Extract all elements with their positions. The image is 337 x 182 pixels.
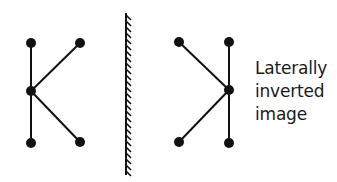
arm-line [31, 43, 80, 91]
arm-line [179, 90, 229, 142]
point-dot [26, 138, 36, 148]
point-dot [26, 38, 36, 48]
point-dot [174, 37, 184, 47]
point-dot [26, 86, 36, 96]
point-dot [224, 85, 234, 95]
inverted-image-shape [174, 37, 234, 148]
lateral-inversion-diagram: Laterally inverted image [0, 0, 337, 182]
image-label: Laterally inverted image [255, 57, 327, 126]
label-line-3: image [255, 103, 327, 126]
plane-mirror [126, 13, 131, 176]
point-dot [75, 38, 85, 48]
point-dot [224, 37, 234, 47]
point-dot [224, 138, 234, 148]
label-line-1: Laterally [255, 57, 327, 80]
arm-line [179, 42, 229, 90]
point-dot [75, 137, 85, 147]
point-dot [174, 137, 184, 147]
arm-line [31, 91, 80, 142]
label-line-2: inverted [255, 80, 327, 103]
object-k-shape [26, 38, 85, 148]
